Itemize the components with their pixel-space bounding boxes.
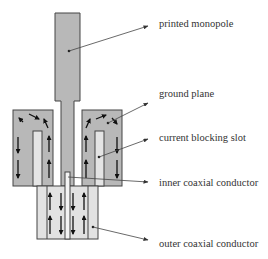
label-printed-monopole: printed monopole [159, 18, 234, 29]
label-outer-coaxial-conductor: outer coaxial conductor [159, 238, 259, 249]
current-blocking-slot-left [33, 131, 42, 186]
label-inner-coaxial-conductor: inner coaxial conductor [159, 177, 259, 188]
printed-monopole [55, 13, 80, 186]
inner-coaxial-conductor [65, 172, 70, 239]
label-current-blocking-slot: current blocking slot [159, 132, 246, 143]
label-ground-plane: ground plane [159, 88, 214, 99]
current-blocking-slot-right [95, 131, 104, 186]
ground-plane-right [82, 110, 122, 186]
ground-plane-left [13, 110, 53, 186]
antenna-diagram: printed monopole ground plane current bl… [0, 0, 268, 259]
